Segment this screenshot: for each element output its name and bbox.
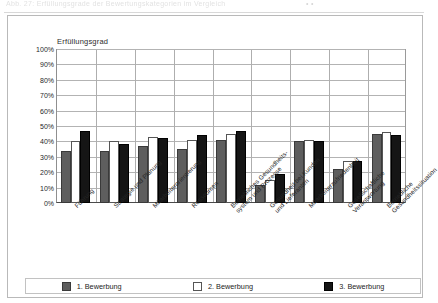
horizontal-gridline [57,95,405,96]
horizontal-gridline [57,141,405,142]
y-axis-tick-label: 40% [10,138,54,145]
y-axis-tick-label: 0% [10,200,54,207]
horizontal-gridline [57,64,405,65]
y-axis-tick-label: 20% [10,169,54,176]
legend-swatch-icon [324,282,333,291]
y-axis-tick-label: 100% [10,46,54,53]
scanned-header-glyphs: • • [306,0,314,7]
y-axis-tick-label: 10% [10,184,54,191]
scanned-page-header: Abb. 27: Erfüllungsgrade der Bewertungsk… [6,0,426,12]
chart-title: Erfüllungsgrad [57,37,108,46]
chart-legend: 1. Bewerbung2. Bewerbung3. Bewerbung [25,278,421,294]
y-axis-tick-label: 50% [10,123,54,130]
y-axis-tick-label: 80% [10,76,54,83]
scanned-page-rule [4,12,424,13]
legend-label: 2. Bewerbung [208,282,253,291]
vertical-gridline [96,50,97,202]
chart-frame: Erfüllungsgrad 0%10%20%30%40%50%60%70%80… [7,15,423,298]
y-axis: 0%10%20%30%40%50%60%70%80%90%100% [8,49,54,203]
horizontal-gridline [57,126,405,127]
y-axis-tick-label: 70% [10,92,54,99]
plot-area [56,49,406,203]
horizontal-gridline [57,188,405,189]
legend-label: 1. Bewerbung [77,282,122,291]
legend-item: 3. Bewerbung [324,282,384,291]
scanned-header-text: Abb. 27: Erfüllungsgrade der Bewertungsk… [6,0,225,7]
y-axis-tick-label: 30% [10,153,54,160]
horizontal-gridline [57,49,405,50]
x-axis-labels: FührungStrategie und PlanungMitarbeitero… [56,204,416,274]
horizontal-gridline [57,111,405,112]
legend-label: 3. Bewerbung [339,282,384,291]
legend-swatch-icon [193,282,202,291]
legend-item: 1. Bewerbung [62,282,122,291]
horizontal-gridline [57,80,405,81]
legend-swatch-icon [62,282,71,291]
y-axis-tick-label: 90% [10,61,54,68]
y-axis-tick-label: 60% [10,107,54,114]
horizontal-gridline [57,172,405,173]
legend-item: 2. Bewerbung [193,282,253,291]
